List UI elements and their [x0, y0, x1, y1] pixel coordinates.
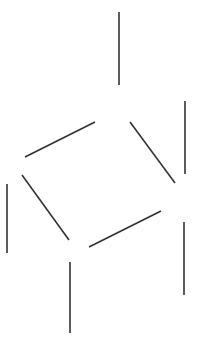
bond-lower-left-diagonal — [22, 175, 69, 240]
bond-upper-left-diagonal — [25, 122, 95, 157]
bond-lower-right-diagonal — [89, 211, 161, 247]
skeletal-diagram — [0, 0, 201, 347]
bond-upper-right-diagonal — [130, 122, 175, 183]
